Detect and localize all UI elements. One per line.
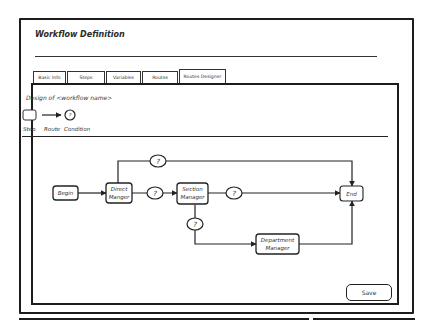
svg-text:Manager: Manager: [265, 245, 290, 252]
svg-text:Section: Section: [182, 186, 203, 192]
node-department-manager[interactable]: Department Manager: [256, 234, 299, 254]
node-direct-manager[interactable]: Direct Manger: [106, 183, 132, 203]
workflow-diagram: ? Begin Direct Manger Section Manager De…: [0, 0, 431, 330]
condition-direct-to-end[interactable]: ?: [150, 155, 166, 167]
condition-section-to-department[interactable]: ?: [187, 218, 203, 230]
node-end[interactable]: End: [340, 186, 363, 201]
svg-text:Manager: Manager: [180, 194, 205, 201]
svg-text:Department: Department: [261, 237, 295, 244]
condition-section-to-end[interactable]: ?: [226, 187, 242, 199]
svg-text:?: ?: [153, 190, 157, 198]
svg-text:?: ?: [193, 221, 197, 229]
frame-bottom-edge: [313, 318, 415, 320]
save-button[interactable]: Save: [346, 284, 392, 301]
svg-text:Begin: Begin: [58, 190, 74, 197]
legend-step-icon: [23, 110, 36, 120]
node-section-manager[interactable]: Section Manager: [177, 183, 208, 204]
condition-direct-to-section[interactable]: ?: [147, 187, 163, 199]
svg-text:Direct: Direct: [111, 186, 128, 192]
node-begin[interactable]: Begin: [53, 186, 78, 200]
svg-text:?: ?: [232, 190, 236, 198]
frame-bottom-edge: [19, 318, 309, 320]
svg-text:Manger: Manger: [109, 194, 130, 201]
svg-text:End: End: [346, 191, 357, 197]
svg-text:?: ?: [69, 112, 72, 118]
svg-text:?: ?: [156, 158, 160, 166]
